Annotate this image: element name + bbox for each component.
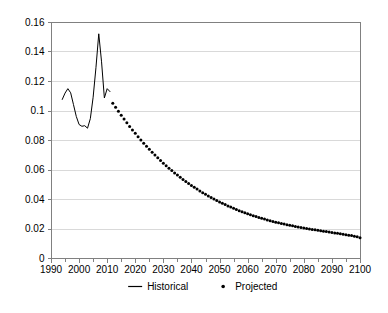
x-axis-tick-label: 2010 (96, 264, 119, 275)
data-point (344, 233, 347, 236)
data-point (204, 193, 207, 196)
x-axis-tick-label: 2040 (180, 264, 203, 275)
data-point (153, 154, 156, 157)
y-axis-tick-label: 0.14 (25, 46, 45, 57)
y-axis-tick-label: 0.12 (25, 76, 45, 87)
data-point (229, 206, 232, 209)
data-point (212, 198, 215, 201)
data-point (260, 217, 263, 220)
data-point (274, 221, 277, 224)
data-point (120, 114, 123, 117)
data-point (291, 224, 294, 227)
data-point (187, 182, 190, 185)
x-axis-tick-label: 2070 (265, 264, 288, 275)
data-point (184, 180, 187, 183)
y-axis-tick-label: 0.04 (25, 194, 45, 205)
data-point (347, 234, 350, 237)
data-point (322, 230, 325, 233)
data-point (207, 194, 210, 197)
legend-marker-dot (221, 285, 225, 289)
data-point (297, 225, 300, 228)
data-point (277, 221, 280, 224)
data-point (123, 118, 126, 121)
data-point (190, 184, 193, 187)
data-point (339, 232, 342, 235)
line-chart: 00.020.040.060.080.10.120.140.16 1990200… (0, 0, 388, 313)
data-point (156, 156, 159, 159)
data-point (148, 148, 151, 151)
data-point (257, 216, 260, 219)
x-axis-tick-label: 2050 (208, 264, 231, 275)
data-point (271, 220, 274, 223)
data-point (235, 208, 238, 211)
data-point (300, 226, 303, 229)
data-point (316, 229, 319, 232)
data-point (131, 128, 134, 131)
x-axis-tick-label: 2060 (237, 264, 260, 275)
data-point (176, 174, 179, 177)
legend-label: Projected (235, 281, 277, 292)
data-point (302, 226, 305, 229)
legend-label: Historical (147, 281, 188, 292)
chart-container: 00.020.040.060.080.10.120.140.16 1990200… (0, 0, 388, 313)
data-point (325, 230, 328, 233)
data-point (179, 176, 182, 179)
data-point (350, 234, 353, 237)
data-point (285, 223, 288, 226)
data-point (114, 106, 117, 109)
data-point (294, 225, 297, 228)
data-point (311, 228, 314, 231)
data-point (173, 171, 176, 174)
data-point (221, 202, 224, 205)
data-point (193, 186, 196, 189)
data-point (182, 178, 185, 181)
data-point (356, 235, 359, 238)
data-point (330, 231, 333, 234)
x-axis-tick-label: 2020 (124, 264, 147, 275)
data-point (266, 218, 269, 221)
data-point (201, 191, 204, 194)
data-point (305, 227, 308, 230)
data-point (215, 199, 218, 202)
x-axis-tick-label: 1990 (40, 264, 63, 275)
data-point (134, 132, 137, 135)
data-point (238, 209, 241, 212)
data-point (167, 167, 170, 170)
data-point (196, 188, 199, 191)
data-point (308, 227, 311, 230)
y-axis-tick-label: 0.06 (25, 164, 45, 175)
data-point (125, 121, 128, 124)
data-point (246, 212, 249, 215)
data-point (224, 203, 227, 206)
data-point (170, 169, 173, 172)
data-point (137, 135, 140, 138)
data-point (342, 233, 345, 236)
data-point (218, 200, 221, 203)
data-point (283, 223, 286, 226)
x-axis-tick-label: 2000 (68, 264, 91, 275)
data-point (142, 142, 145, 145)
data-point (145, 145, 148, 148)
data-point (111, 102, 114, 105)
data-point (333, 231, 336, 234)
data-point (159, 159, 162, 162)
y-axis-tick-label: 0.02 (25, 223, 45, 234)
data-point (255, 215, 258, 218)
data-point (263, 218, 266, 221)
x-axis-tick-label: 2080 (293, 264, 316, 275)
data-point (165, 164, 168, 167)
y-axis-tick-label: 0 (39, 253, 45, 264)
data-point (359, 236, 362, 239)
data-point (252, 214, 255, 217)
data-point (319, 229, 322, 232)
data-point (328, 231, 331, 234)
data-point (162, 162, 165, 165)
y-axis-tick-label: 0.16 (25, 17, 45, 28)
data-point (280, 222, 283, 225)
data-point (139, 139, 142, 142)
data-point (336, 232, 339, 235)
data-point (353, 235, 356, 238)
x-axis-tick-label: 2030 (152, 264, 175, 275)
data-point (232, 207, 235, 210)
data-point (241, 210, 244, 213)
